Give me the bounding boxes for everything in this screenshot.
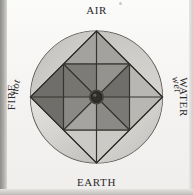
center-hub-inner xyxy=(91,92,101,102)
figure-container: AIR WATER EARTH FIRE hot wet cold dry xyxy=(0,0,193,195)
element-label-earth: EARTH xyxy=(77,176,116,188)
center-hub-highlight xyxy=(93,94,96,97)
quality-label-cold: cold xyxy=(0,0,3,2)
quality-label-dry: dry xyxy=(0,0,3,2)
quality-label-hot: hot xyxy=(9,77,22,94)
element-label-air: AIR xyxy=(86,4,107,16)
four-elements-diagram: AIR WATER EARTH FIRE hot wet cold dry xyxy=(0,0,193,195)
